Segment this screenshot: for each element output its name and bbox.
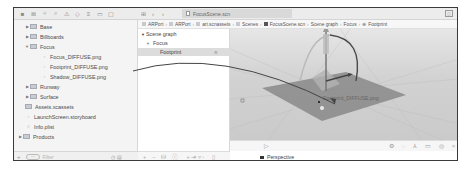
search-icon[interactable]: ⌕ bbox=[50, 9, 61, 19]
breakpoint-icon[interactable]: ▭ bbox=[94, 9, 105, 19]
breadcrumb-item[interactable]: Footprint bbox=[368, 22, 387, 27]
folder-icon bbox=[30, 24, 37, 29]
tree-item-label: Surface bbox=[40, 94, 59, 100]
remove-node-icon[interactable]: − bbox=[152, 154, 155, 160]
material-icon[interactable]: ⛁ bbox=[161, 154, 166, 160]
axis-icon[interactable]: ⅄ bbox=[413, 143, 417, 149]
panel-icon[interactable]: ▯ bbox=[212, 154, 215, 160]
recent-files-icon[interactable]: ◷ ▤ bbox=[111, 154, 121, 160]
node-label: Footprint bbox=[160, 49, 181, 55]
breadcrumb-item[interactable]: FocusScene.scn bbox=[270, 22, 305, 27]
folder-icon bbox=[236, 22, 240, 26]
breadcrumb-item[interactable]: Focus bbox=[344, 22, 357, 27]
info-icon[interactable]: ⓘ bbox=[172, 153, 178, 161]
filter-options-icon[interactable]: ⋯ bbox=[26, 154, 40, 160]
report-icon[interactable]: ▢ bbox=[105, 9, 116, 19]
filter-input[interactable]: ⋯ Filter ◷ ▤ bbox=[26, 154, 122, 161]
image-file-icon: ▫ bbox=[42, 74, 47, 79]
tree-item-label: LaunchScreen.storyboard bbox=[34, 114, 96, 120]
tree-item-products[interactable]: ▶Products bbox=[17, 132, 54, 141]
scene-node-footprint[interactable]: Footprint⚙ bbox=[138, 48, 230, 56]
tree-item-label: Shadow_DIFFUSE.png bbox=[50, 74, 106, 80]
play-icon[interactable]: ▷ bbox=[264, 143, 269, 149]
disclosure-expanded-icon[interactable]: ▼ bbox=[141, 32, 145, 37]
scene-graph-header[interactable]: ▼Scene graph bbox=[138, 30, 230, 38]
tree-item-footprint-diffuse[interactable]: ▫Footprint_DIFFUSE.png bbox=[42, 62, 108, 71]
navigator-filter-bar: + ⋯ Filter ◷ ▤ bbox=[14, 151, 138, 161]
scene-render bbox=[230, 29, 458, 151]
tree-item-label: Billboards bbox=[40, 34, 64, 40]
folder-icon bbox=[30, 34, 37, 39]
inspector-toggle-icon[interactable]: ◫ bbox=[445, 10, 453, 17]
breadcrumb-item[interactable]: Scenes bbox=[242, 22, 258, 27]
asset-catalog-icon bbox=[25, 104, 32, 109]
scene-graph-panel: ▼Scene graph ▼Focus Footprint⚙ bbox=[138, 29, 230, 151]
viewport-bottom-bar: ▷ ⚙ ◌ ⅄ ▭ ◎ ⌗ bbox=[230, 140, 458, 151]
disclosure-expanded-icon[interactable]: ▼ bbox=[146, 41, 150, 46]
tree-item-shadow-diffuse[interactable]: ▫Shadow_DIFFUSE.png bbox=[42, 72, 106, 81]
tree-item-focus[interactable]: ▼Focus bbox=[24, 42, 55, 51]
transform-icon[interactable]: + ⇥ ▿ ◦ bbox=[186, 154, 204, 160]
tree-item-infoplist[interactable]: ≡Info.plist bbox=[26, 122, 54, 131]
tab-focusscene[interactable]: FocusScene.scn bbox=[182, 9, 292, 18]
back-button[interactable]: ‹ bbox=[148, 11, 158, 17]
related-items-icon[interactable]: ⊞ bbox=[138, 10, 148, 17]
storyboard-icon: ▫ bbox=[26, 114, 31, 119]
add-button[interactable]: + bbox=[17, 154, 21, 160]
breadcrumb-item[interactable]: ARPort bbox=[148, 22, 163, 27]
folder-icon bbox=[30, 84, 37, 89]
scene-file-icon bbox=[264, 22, 268, 26]
tree-item-label: Runway bbox=[40, 84, 59, 90]
tree-item-launchscreen[interactable]: ▫LaunchScreen.storyboard bbox=[26, 112, 96, 121]
camera-label: Perspective bbox=[267, 154, 294, 160]
image-file-icon: ▫ bbox=[42, 64, 47, 69]
tree-item-assets[interactable]: Assets.xcassets bbox=[25, 102, 74, 111]
visibility-icon[interactable]: ⚙ bbox=[214, 50, 218, 55]
scene-file-icon bbox=[186, 11, 190, 16]
folder-icon bbox=[196, 22, 200, 26]
visibility-icon[interactable]: ◎ bbox=[439, 143, 444, 149]
tree-item-label: Assets.xcassets bbox=[35, 104, 74, 110]
tree-item-base[interactable]: ▶Base bbox=[24, 22, 52, 31]
add-node-icon[interactable]: + bbox=[143, 154, 146, 160]
camera-selector[interactable]: Perspective bbox=[260, 154, 294, 160]
folder-icon[interactable]: ■ bbox=[17, 9, 28, 19]
hierarchy-icon[interactable]: ⌗ bbox=[39, 9, 50, 19]
scene-settings-icon[interactable]: ⚙ bbox=[389, 143, 394, 149]
frame-icon[interactable]: ▭ bbox=[425, 143, 431, 149]
xcode-window: ■ ⊠ ⌗ ⌕ ⚠ ◇ ≡ ▭ ▢ ⊞ ‹ › FocusScene.scn ◫… bbox=[13, 7, 458, 161]
node-icon: ⊕ bbox=[362, 22, 366, 27]
test-icon[interactable]: ◇ bbox=[72, 9, 83, 19]
tree-item-label: Footprint_DIFFUSE.png bbox=[50, 64, 108, 70]
image-file-icon: ▫ bbox=[42, 54, 47, 59]
scene-node-focus[interactable]: ▼Focus bbox=[138, 39, 230, 47]
tree-item-label: Focus bbox=[40, 44, 55, 50]
camera-icon bbox=[260, 156, 264, 159]
tree-item-label: Products bbox=[33, 134, 54, 140]
source-control-icon[interactable]: ⊠ bbox=[28, 9, 39, 19]
tree-item-runway[interactable]: ▶Runway bbox=[24, 82, 59, 91]
node-label: Focus bbox=[153, 40, 168, 46]
breadcrumb-item[interactable]: ARPort bbox=[175, 22, 190, 27]
tree-item-label: Info.plist bbox=[34, 124, 54, 130]
tree-item-focus-diffuse[interactable]: ▫Focus_DIFFUSE.png bbox=[42, 52, 101, 61]
scene-graph-bottom-bar: + − ⛁ ⓘ + ⇥ ▿ ◦ ▯ bbox=[138, 151, 230, 161]
viewport-overlay-label: Footprint_DIFFUSE.png bbox=[323, 95, 379, 101]
plist-icon: ≡ bbox=[26, 124, 31, 129]
grid-icon[interactable]: ⌗ bbox=[452, 143, 455, 150]
top-toolbar: ■ ⊠ ⌗ ⌕ ⚠ ◇ ≡ ▭ ▢ ⊞ ‹ › FocusScene.scn ◫ bbox=[14, 8, 457, 20]
breadcrumb-item[interactable]: art.scnassets bbox=[202, 22, 230, 27]
lighting-icon[interactable]: ◌ bbox=[402, 143, 405, 149]
debug-icon[interactable]: ≡ bbox=[83, 9, 94, 19]
forward-button[interactable]: › bbox=[158, 11, 168, 17]
warning-icon[interactable]: ⚠ bbox=[61, 9, 72, 19]
breadcrumb-item[interactable]: Scene graph bbox=[311, 22, 338, 27]
editor-tab-bar: ⊞ ‹ › FocusScene.scn bbox=[138, 8, 292, 20]
tab-label: FocusScene.scn bbox=[193, 11, 230, 17]
tree-item-surface[interactable]: ▶Surface bbox=[24, 92, 59, 101]
tree-item-label: Base bbox=[40, 24, 52, 30]
tree-item-billboards[interactable]: ▶Billboards bbox=[24, 32, 64, 41]
project-navigator: ▶Base ▶Billboards ▼Focus ▫Focus_DIFFUSE.… bbox=[14, 20, 138, 161]
scene-graph-title: Scene graph bbox=[146, 31, 177, 37]
scene-viewport[interactable]: Footprint_DIFFUSE.png ▷ ⚙ ◌ ⅄ ▭ ◎ ⌗ bbox=[230, 29, 458, 151]
